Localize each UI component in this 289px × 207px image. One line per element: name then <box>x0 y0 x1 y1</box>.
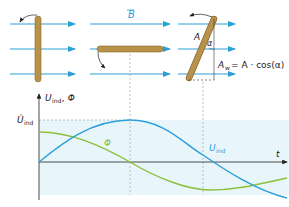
rotation-arrow-icon <box>190 14 212 17</box>
angle-label: α <box>207 39 213 48</box>
svg-text:ind: ind <box>216 147 225 154</box>
svg-text:U: U <box>209 143 216 153</box>
phi-curve-label: Φ <box>104 138 111 148</box>
rod-vertical <box>35 16 41 82</box>
rod-horizontal <box>97 46 163 52</box>
svg-text:U: U <box>45 93 52 103</box>
svg-text:= A · cos(α): = A · cos(α) <box>231 60 284 70</box>
svg-text:w: w <box>225 64 230 71</box>
area-label: A <box>193 32 200 42</box>
svg-text:B: B <box>128 9 135 20</box>
rotation-arrow-icon <box>20 15 37 22</box>
svg-text:, Φ: , Φ <box>62 93 75 103</box>
x-axis-label: t <box>276 149 280 159</box>
peak-label: Û ind <box>17 114 33 126</box>
svg-text:A: A <box>217 60 224 70</box>
formula: A w = A · cos(α) <box>217 60 284 71</box>
rotation-arrow-icon <box>98 52 105 68</box>
svg-text:ind: ind <box>24 119 33 126</box>
diagram: B A α A w = A · cos(α) U ind , Φ Û ind t… <box>0 0 289 207</box>
svg-text:Û: Û <box>17 114 24 125</box>
y-axis-label: U ind , Φ <box>45 93 75 104</box>
svg-text:ind: ind <box>52 97 61 104</box>
b-field-label: B <box>127 9 135 20</box>
